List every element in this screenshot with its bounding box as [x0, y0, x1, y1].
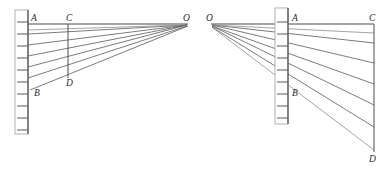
point-label-o: O: [206, 13, 213, 23]
right-diagram: O A B C D: [206, 8, 376, 164]
point-label-o: O: [183, 13, 190, 23]
ray-1: [212, 25, 374, 33]
right-scale: [275, 8, 288, 124]
ray-4: [212, 26, 374, 84]
point-label-c: C: [66, 13, 73, 23]
point-label-b: B: [34, 88, 40, 98]
ray-6: [30, 26, 188, 90]
ray-4: [28, 25, 187, 67]
point-label-b: B: [292, 88, 298, 98]
ray-2: [212, 25, 374, 43]
point-label-a: A: [30, 13, 37, 23]
left-ray-bundle: [28, 24, 188, 90]
scale-body: [275, 8, 288, 124]
ray-diagram-svg: A B C D O: [0, 0, 385, 170]
ray-6: [212, 27, 374, 127]
point-label-a: A: [291, 13, 298, 23]
point-label-d: D: [65, 78, 73, 88]
figure-root: A B C D O: [0, 0, 385, 170]
left-diagram: A B C D O: [15, 10, 190, 134]
point-label-d: D: [368, 154, 376, 164]
ray-2: [28, 25, 187, 45]
left-scale: [15, 10, 28, 134]
scale-body: [15, 10, 28, 134]
ray-5: [28, 26, 187, 78]
point-label-c: C: [369, 13, 376, 23]
right-ray-bundle: [211, 24, 374, 150]
ray-3: [212, 25, 374, 63]
